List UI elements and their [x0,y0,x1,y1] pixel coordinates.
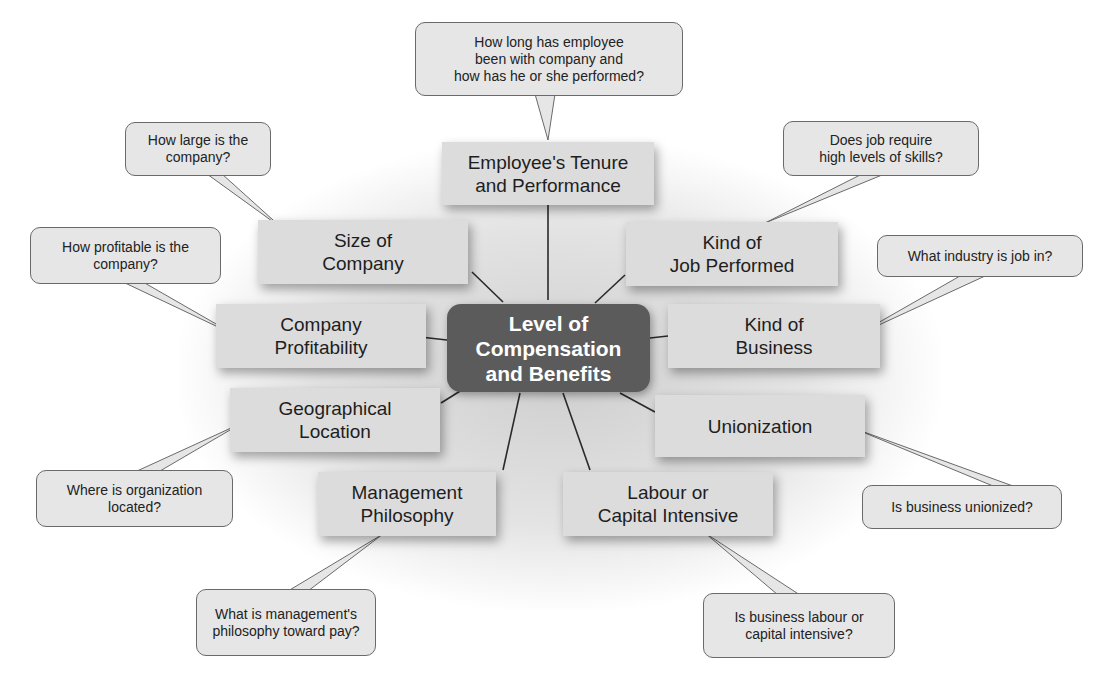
question-bubble-location: Where is organization located? [36,470,233,527]
factor-label: Geographical Location [278,397,391,443]
center-label: Level of Compensation and Benefits [476,311,622,386]
question-text: What is management's philosophy toward p… [212,606,359,640]
question-bubble-management: What is management's philosophy toward p… [196,589,376,656]
factor-box-tenure: Employee's Tenure and Performance [442,142,654,205]
question-text: How profitable is the company? [62,239,189,273]
factor-box-labour-capital: Labour or Capital Intensive [563,472,773,536]
question-text: Is business labour or capital intensive? [734,609,863,643]
factor-label: Unionization [708,415,813,438]
question-bubble-profitability: How profitable is the company? [30,227,221,284]
question-text: Where is organization located? [67,482,202,516]
factor-label: Employee's Tenure and Performance [468,151,629,197]
question-text: What industry is job in? [908,248,1053,265]
factor-label: Company Profitability [275,313,368,359]
question-bubble-size: How large is the company? [125,122,271,176]
question-bubble-unionization: Is business unionized? [862,485,1062,529]
factor-label: Size of Company [322,229,403,275]
factor-label: Kind of Business [735,313,812,359]
question-bubble-job: Does job require high levels of skills? [783,121,979,176]
question-text: How large is the company? [148,132,248,166]
factor-box-unionization: Unionization [655,395,865,457]
factor-box-profitability: Company Profitability [216,304,426,368]
question-bubble-labour-capital: Is business labour or capital intensive? [703,593,895,658]
question-bubble-tenure: How long has employee been with company … [415,22,683,96]
factor-box-management: Management Philosophy [318,472,496,536]
factor-label: Kind of Job Performed [670,231,795,277]
compensation-factors-diagram: Employee's Tenure and Performance Size o… [0,0,1106,691]
center-node: Level of Compensation and Benefits [447,304,650,392]
question-text: How long has employee been with company … [454,34,644,85]
factor-label: Labour or Capital Intensive [598,481,738,527]
question-text: Is business unionized? [891,499,1033,516]
factor-box-business: Kind of Business [668,304,880,368]
factor-label: Management Philosophy [352,481,463,527]
factor-box-location: Geographical Location [230,388,440,452]
factor-box-job: Kind of Job Performed [626,222,838,286]
question-text: Does job require high levels of skills? [819,132,943,166]
factor-box-size: Size of Company [258,220,468,284]
question-bubble-business: What industry is job in? [877,235,1083,277]
